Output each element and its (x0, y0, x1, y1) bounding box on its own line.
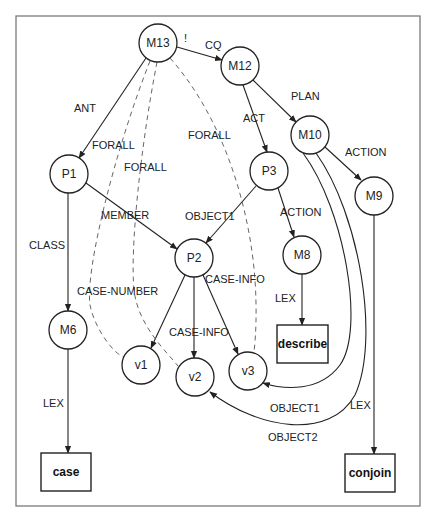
edge-label: FORALL (124, 161, 167, 173)
lex-box-label: conjoin (349, 466, 392, 480)
edge-label: ACTION (280, 206, 322, 218)
edges-layer (68, 47, 374, 454)
node-p2: P2 (175, 239, 213, 277)
edge-label: CASE-INFO (169, 326, 229, 338)
edge-m13-v3 (170, 58, 256, 352)
lex-box-describe: describe (277, 325, 328, 363)
node-label: M9 (366, 189, 383, 203)
edge-label: FORALL (92, 139, 135, 151)
edge-label: MEMBER (101, 209, 149, 221)
lex-box-label: case (53, 465, 80, 479)
node-v3: v3 (229, 352, 267, 390)
semantic-network-diagram: CQ!PLANACTANTACTIONACTIONOBJECT1MEMBERCL… (0, 0, 435, 518)
node-v1: v1 (122, 346, 160, 384)
edge-label: PLAN (291, 90, 320, 102)
edge-p2-v3 (203, 275, 238, 354)
node-m13: M13 (139, 24, 177, 62)
edge-label: LEX (350, 399, 371, 411)
node-m9: M9 (355, 177, 393, 215)
node-m10: M10 (291, 116, 329, 154)
lex-box-case: case (41, 453, 91, 491)
node-label: M13 (146, 36, 170, 50)
edge-label: CQ (205, 39, 222, 51)
node-label: v1 (135, 358, 148, 372)
node-label: M8 (294, 248, 311, 262)
edge-label: OBJECT2 (268, 431, 318, 443)
node-label: M10 (298, 128, 322, 142)
edge-label: FORALL (188, 129, 231, 141)
edge-label: LEX (275, 292, 296, 304)
lex-box-conjoin: conjoin (345, 454, 395, 492)
node-label: P3 (262, 164, 277, 178)
node-m6: M6 (49, 311, 87, 349)
node-p3: P3 (250, 152, 288, 190)
edge-label: CASE-INFO (205, 273, 265, 285)
node-m12: M12 (221, 47, 259, 85)
edge-label: ANT (74, 102, 96, 114)
diagram-frame (16, 16, 420, 506)
edge-label: CLASS (29, 239, 65, 251)
node-label: M12 (228, 59, 252, 73)
node-v2: v2 (176, 358, 214, 396)
edge-label: LEX (43, 397, 64, 409)
node-p1: P1 (50, 155, 88, 193)
node-label: P2 (187, 251, 202, 265)
node-label: P1 (62, 167, 77, 181)
node-m8: M8 (283, 236, 321, 274)
edge-label: OBJECT1 (185, 210, 235, 222)
edge-label: ACT (243, 112, 265, 124)
edge-label: CASE-NUMBER (77, 285, 158, 297)
node-label: v2 (189, 370, 202, 384)
node-label: M6 (60, 323, 77, 337)
edge-label: ACTION (345, 146, 387, 158)
edge-label: OBJECT1 (270, 402, 320, 414)
node-label: v3 (242, 364, 255, 378)
edge-label: ! (184, 32, 187, 44)
boxes-layer: describecaseconjoin (41, 325, 395, 492)
lex-box-label: describe (278, 337, 328, 351)
